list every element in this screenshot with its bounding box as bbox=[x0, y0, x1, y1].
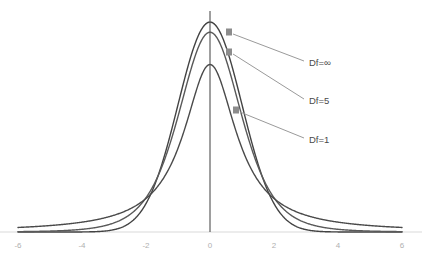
leader-line bbox=[233, 54, 304, 99]
x-tick-label: 0 bbox=[208, 241, 213, 250]
arrow-marker-icon bbox=[226, 49, 232, 56]
leader-line bbox=[233, 34, 304, 61]
series-label-2: Df=5 bbox=[309, 95, 329, 106]
series-label-1: Df=∞ bbox=[309, 57, 331, 68]
plot-area: Df=∞Df=5Df=1 -6-4-20246 bbox=[0, 11, 422, 250]
annotation-1: Df=∞ bbox=[226, 29, 331, 68]
arrow-marker-icon bbox=[226, 29, 232, 36]
x-tick-label: 6 bbox=[400, 241, 405, 250]
x-tick-label: -4 bbox=[78, 241, 86, 250]
series-label-3: Df=1 bbox=[309, 134, 329, 145]
series-annotations: Df=∞Df=5Df=1 bbox=[226, 29, 331, 145]
x-axis-tick-labels: -6-4-20246 bbox=[14, 241, 404, 250]
x-tick-label: -2 bbox=[142, 241, 150, 250]
x-tick-label: 2 bbox=[272, 241, 277, 250]
arrow-marker-icon bbox=[233, 107, 239, 114]
x-tick-label: -6 bbox=[14, 241, 22, 250]
x-tick-label: 4 bbox=[336, 241, 341, 250]
t-distribution-chart: Df=∞Df=5Df=1 -6-4-20246 bbox=[0, 0, 422, 259]
chart-canvas: Df=∞Df=5Df=1 -6-4-20246 bbox=[0, 0, 422, 259]
